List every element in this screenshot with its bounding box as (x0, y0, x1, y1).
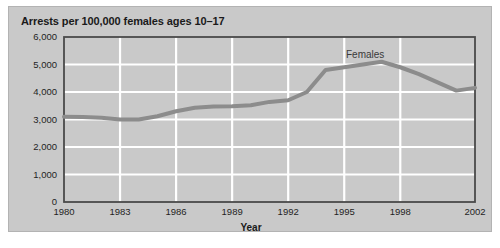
svg-text:1,000: 1,000 (33, 169, 57, 180)
svg-text:1998: 1998 (390, 206, 411, 217)
series-label-females: Females (346, 49, 384, 60)
svg-text:6,000: 6,000 (33, 31, 57, 42)
svg-text:1992: 1992 (278, 206, 299, 217)
svg-text:2,000: 2,000 (33, 141, 57, 152)
line-chart-plot: 01,0002,0003,0004,0005,0006,000 19801983… (9, 7, 493, 233)
svg-text:1980: 1980 (53, 206, 74, 217)
y-axis-tick-labels: 01,0002,0003,0004,0005,0006,000 (33, 31, 57, 207)
svg-text:1995: 1995 (334, 206, 355, 217)
svg-text:5,000: 5,000 (33, 59, 57, 70)
svg-text:1983: 1983 (109, 206, 130, 217)
x-axis-title: Year (9, 222, 493, 233)
svg-text:4,000: 4,000 (33, 86, 57, 97)
svg-text:3,000: 3,000 (33, 114, 57, 125)
data-series-group (64, 62, 475, 120)
svg-text:1989: 1989 (222, 206, 243, 217)
svg-text:1986: 1986 (166, 206, 187, 217)
x-axis-tick-labels: 19801983198619891992199519982002 (53, 206, 485, 217)
chart-figure: Arrests per 100,000 females ages 10–17 0… (8, 6, 492, 232)
svg-text:2002: 2002 (464, 206, 485, 217)
